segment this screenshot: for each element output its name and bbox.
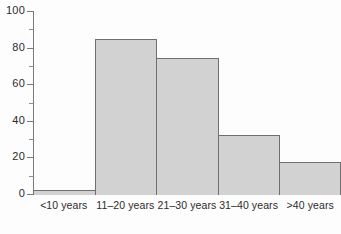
y-axis-tick-label-text: 80 [1, 42, 25, 53]
bar [33, 190, 96, 195]
y-axis-tick-label: 80 [0, 42, 25, 53]
x-axis-tick-label: 21–30 years [156, 199, 218, 211]
bar [95, 39, 158, 195]
y-axis-tick-label-text: 40 [1, 115, 25, 126]
bar [279, 162, 341, 195]
bar [156, 58, 219, 195]
plot-area [33, 11, 341, 195]
x-axis-tick-label: >40 years [279, 199, 341, 211]
y-axis-tick-label: 40 [0, 115, 25, 126]
y-axis-tick-label: 100 [0, 5, 25, 16]
x-axis-tick-label: 31–40 years [218, 199, 280, 211]
y-axis-tick-label-text: 60 [1, 78, 25, 89]
y-axis-tick-label-text: 0 [1, 188, 25, 199]
x-axis-tick-label: <10 years [33, 199, 95, 211]
y-axis-tick-label-text: 100 [1, 5, 25, 16]
y-axis-tick-label-text: 20 [1, 151, 25, 162]
bar-chart: 020406080100 <10 years11–20 years21–30 y… [0, 0, 341, 234]
x-axis-tick-label: 11–20 years [95, 199, 157, 211]
bar [218, 135, 281, 195]
y-axis-tick-label: 0 [0, 188, 25, 199]
y-axis-tick-label: 20 [0, 151, 25, 162]
y-axis-tick-label: 60 [0, 78, 25, 89]
